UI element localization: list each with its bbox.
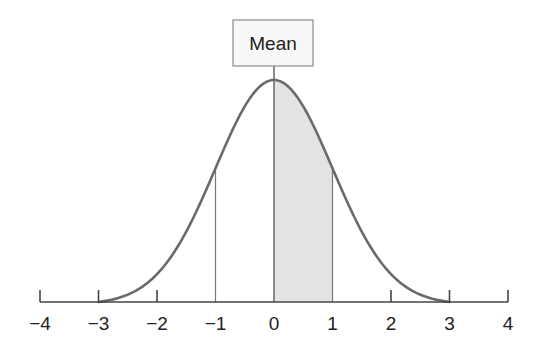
x-axis-tick-labels: −4−3−2−101234: [29, 313, 514, 334]
x-tick-label: 2: [386, 313, 397, 334]
x-tick-label: 0: [269, 313, 280, 334]
chart-canvas: −4−3−2−101234 Mean: [0, 0, 538, 355]
shaded-region-0-to-1: [274, 80, 333, 302]
normal-distribution-diagram: −4−3−2−101234 Mean: [0, 0, 538, 355]
x-tick-label: −4: [29, 313, 51, 334]
x-tick-label: −3: [88, 313, 110, 334]
mean-label-text: Mean: [249, 33, 297, 54]
x-tick-label: −1: [205, 313, 227, 334]
x-tick-label: −2: [146, 313, 168, 334]
x-tick-label: 3: [444, 313, 455, 334]
x-tick-label: 1: [327, 313, 338, 334]
x-tick-label: 4: [503, 313, 514, 334]
